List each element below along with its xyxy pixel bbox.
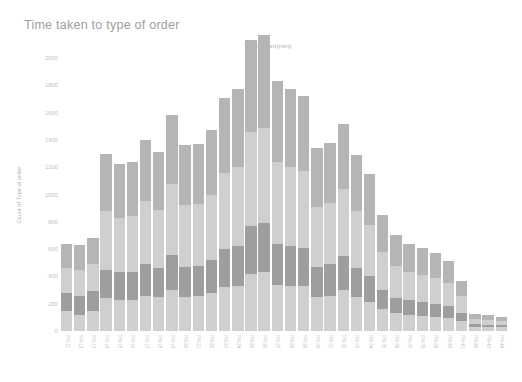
- bar[interactable]: [443, 58, 454, 331]
- bar[interactable]: [417, 58, 428, 331]
- bar-segment-segment_2[interactable]: [245, 226, 256, 274]
- bar-segment-segment_1[interactable]: [456, 321, 467, 331]
- bar-segment-segment_2[interactable]: [338, 256, 349, 290]
- bar-segment-segment_4[interactable]: [272, 81, 283, 162]
- bar-segment-segment_3[interactable]: [258, 128, 269, 224]
- bar-segment-segment_3[interactable]: [140, 201, 151, 264]
- bar-segment-segment_1[interactable]: [482, 327, 493, 331]
- bar-segment-segment_1[interactable]: [100, 298, 111, 331]
- bar-segment-segment_4[interactable]: [403, 244, 414, 272]
- bar-segment-segment_1[interactable]: [364, 302, 375, 331]
- bar-segment-segment_1[interactable]: [377, 309, 388, 331]
- bar-segment-segment_4[interactable]: [153, 152, 164, 209]
- bar-segment-segment_3[interactable]: [127, 216, 138, 272]
- bar-segment-segment_1[interactable]: [206, 293, 217, 331]
- bar-segment-segment_3[interactable]: [311, 207, 322, 267]
- bar-segment-segment_4[interactable]: [166, 115, 177, 183]
- bar-segment-segment_3[interactable]: [166, 184, 177, 255]
- bar-segment-segment_4[interactable]: [193, 144, 204, 204]
- bar[interactable]: [153, 58, 164, 331]
- bar[interactable]: [166, 58, 177, 331]
- bar[interactable]: [272, 58, 283, 331]
- bar-segment-segment_4[interactable]: [390, 235, 401, 266]
- bar-segment-segment_4[interactable]: [417, 248, 428, 275]
- bar-segment-segment_1[interactable]: [430, 317, 441, 331]
- bar[interactable]: [377, 58, 388, 331]
- bar-segment-segment_2[interactable]: [403, 300, 414, 314]
- bar-segment-segment_1[interactable]: [285, 286, 296, 331]
- bar-segment-segment_4[interactable]: [364, 174, 375, 225]
- bar-segment-segment_2[interactable]: [166, 255, 177, 290]
- bar-segment-segment_3[interactable]: [324, 203, 335, 264]
- bar-segment-segment_2[interactable]: [430, 304, 441, 317]
- bar[interactable]: [338, 58, 349, 331]
- bar-segment-segment_2[interactable]: [74, 296, 85, 315]
- bar[interactable]: [324, 58, 335, 331]
- bar-segment-segment_2[interactable]: [100, 270, 111, 299]
- bar-segment-segment_4[interactable]: [324, 143, 335, 203]
- bar-segment-segment_2[interactable]: [61, 293, 72, 311]
- bar-segment-segment_3[interactable]: [430, 278, 441, 304]
- bar[interactable]: [140, 58, 151, 331]
- bar-segment-segment_4[interactable]: [87, 238, 98, 264]
- bar-segment-segment_2[interactable]: [298, 248, 309, 286]
- bar[interactable]: [127, 58, 138, 331]
- bar-segment-segment_4[interactable]: [232, 89, 243, 167]
- bar-segment-segment_4[interactable]: [351, 155, 362, 211]
- bar-segment-segment_2[interactable]: [417, 302, 428, 316]
- bar-segment-segment_2[interactable]: [443, 306, 454, 318]
- bar[interactable]: [364, 58, 375, 331]
- bar-segment-segment_2[interactable]: [272, 244, 283, 285]
- bar-segment-segment_1[interactable]: [403, 315, 414, 331]
- bar-segment-segment_4[interactable]: [127, 162, 138, 217]
- bar-segment-segment_1[interactable]: [193, 296, 204, 331]
- bar-segment-segment_4[interactable]: [298, 96, 309, 171]
- bar[interactable]: [179, 58, 190, 331]
- bar-segment-segment_1[interactable]: [311, 297, 322, 331]
- bar-segment-segment_1[interactable]: [87, 311, 98, 331]
- bar-segment-segment_4[interactable]: [114, 164, 125, 217]
- bar-segment-segment_1[interactable]: [390, 313, 401, 331]
- bar-segment-segment_3[interactable]: [443, 283, 454, 306]
- bar-segment-segment_2[interactable]: [324, 264, 335, 295]
- bar[interactable]: [403, 58, 414, 331]
- bar[interactable]: [193, 58, 204, 331]
- bar-segment-segment_4[interactable]: [245, 40, 256, 131]
- bar-segment-segment_3[interactable]: [219, 173, 230, 249]
- bar[interactable]: [456, 58, 467, 331]
- bar[interactable]: [219, 58, 230, 331]
- bar-segment-segment_1[interactable]: [496, 327, 507, 331]
- bar[interactable]: [74, 58, 85, 331]
- bar-segment-segment_2[interactable]: [377, 290, 388, 309]
- bar-segment-segment_1[interactable]: [469, 327, 480, 331]
- bar-segment-segment_2[interactable]: [285, 246, 296, 286]
- bar-segment-segment_3[interactable]: [232, 167, 243, 246]
- bar-segment-segment_3[interactable]: [298, 171, 309, 247]
- bar-segment-segment_1[interactable]: [140, 296, 151, 331]
- bar-segment-segment_3[interactable]: [338, 189, 349, 256]
- bar-segment-segment_4[interactable]: [430, 253, 441, 278]
- bar-segment-segment_1[interactable]: [338, 290, 349, 331]
- bar[interactable]: [469, 58, 480, 331]
- bar-segment-segment_4[interactable]: [206, 130, 217, 194]
- bar-segment-segment_1[interactable]: [74, 315, 85, 331]
- bar-segment-segment_4[interactable]: [311, 148, 322, 207]
- bar-segment-segment_3[interactable]: [245, 132, 256, 226]
- bar-segment-segment_3[interactable]: [179, 205, 190, 266]
- bar-segment-segment_3[interactable]: [377, 252, 388, 290]
- bar-segment-segment_4[interactable]: [377, 215, 388, 252]
- bar[interactable]: [390, 58, 401, 331]
- bar-segment-segment_2[interactable]: [127, 272, 138, 299]
- bar-segment-segment_1[interactable]: [351, 297, 362, 331]
- bar[interactable]: [258, 58, 269, 331]
- bar-segment-segment_1[interactable]: [61, 311, 72, 331]
- bar-segment-segment_2[interactable]: [179, 267, 190, 297]
- bar[interactable]: [232, 58, 243, 331]
- bar-segment-segment_3[interactable]: [403, 272, 414, 301]
- bar-segment-segment_2[interactable]: [390, 298, 401, 314]
- bar-segment-segment_4[interactable]: [456, 281, 467, 297]
- bar-segment-segment_3[interactable]: [417, 275, 428, 302]
- bar[interactable]: [114, 58, 125, 331]
- bar-segment-segment_4[interactable]: [140, 140, 151, 201]
- bar-segment-segment_1[interactable]: [258, 272, 269, 331]
